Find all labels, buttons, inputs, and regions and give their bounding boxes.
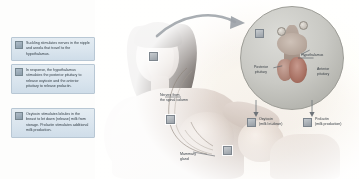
hormone-oxytocin-text: Oxytocin(milk let-down) — [259, 117, 299, 127]
hormone-prolactin-name: Prolactin — [315, 117, 329, 121]
marker-chip-nipple — [223, 146, 232, 155]
breastfeeding-hormone-diagram: Suckling stimulates nerves in the nipple… — [0, 0, 359, 179]
step-number-3 — [15, 112, 23, 120]
hormone-swatch-oxytocin — [247, 118, 256, 127]
inset-label-hypothalamus: Hypothalamus — [301, 53, 335, 58]
hormone-oxytocin-name: Oxytocin — [259, 117, 273, 121]
inset-leader-lines — [241, 7, 343, 109]
callout-step-1: Suckling stimulates nerves in the nipple… — [11, 37, 95, 61]
step-text-3: Oxytocin stimulates lobules in the breas… — [26, 112, 91, 134]
hormone-oxytocin-effect: (milk let-down) — [259, 122, 282, 126]
step-text-1: Suckling stimulates nerves in the nipple… — [26, 41, 91, 57]
brain-magnification-inset: Hypothalamus Posterior pituitary Anterio… — [240, 6, 344, 110]
step-number-1 — [15, 41, 23, 49]
inset-label-anterior-pituitary: Anterior pituitary — [317, 67, 341, 77]
hormone-prolactin-text: Prolactin(milk production) — [315, 117, 355, 127]
label-nerves-from-spinal-column: Nerves from the spinal column — [160, 93, 200, 103]
callout-step-2: In response, the hypothalamus stimulates… — [11, 64, 95, 94]
step-number-2 — [15, 68, 23, 76]
hormone-prolactin-effect: (milk production) — [315, 122, 342, 126]
inset-label-posterior-pituitary: Posterior pituitary — [249, 65, 273, 75]
step-text-2: In response, the hypothalamus stimulates… — [26, 68, 91, 90]
marker-chip-breast — [166, 115, 175, 124]
label-mammary-gland: Mammary gland — [180, 152, 214, 162]
callout-step-3: Oxytocin stimulates lobules in the breas… — [11, 108, 95, 138]
hormone-swatch-prolactin — [303, 118, 312, 127]
marker-chip-hypothalamus — [149, 52, 158, 61]
